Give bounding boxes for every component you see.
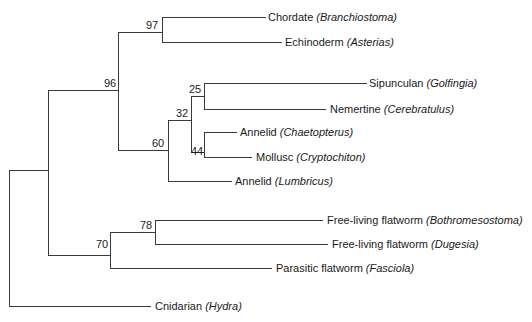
bootstrap-value: 78 [140, 219, 152, 231]
taxon-group: Sipunculan [369, 77, 427, 89]
taxon-genus: (Hydra) [205, 300, 242, 312]
node-connector [162, 17, 163, 43]
terminal-branch [155, 244, 328, 245]
internal-branch [48, 255, 111, 256]
taxon-group: Cnidarian [155, 300, 205, 312]
terminal-branch [155, 220, 323, 221]
taxon-genus: (Golfingia) [427, 77, 478, 89]
bootstrap-value: 32 [176, 107, 188, 119]
taxon-group: Mollusc [256, 151, 296, 163]
taxon-genus: (Chaetopterus) [280, 126, 353, 138]
internal-branch [9, 170, 49, 171]
taxon-genus: (Asterias) [347, 36, 394, 48]
taxon-genus: (Dugesia) [431, 238, 479, 250]
terminal-branch [9, 306, 151, 307]
node-connector [9, 170, 10, 307]
node-connector [110, 232, 111, 269]
taxon-genus: (Cryptochiton) [296, 151, 365, 163]
internal-branch [191, 96, 205, 97]
taxon-label: Free-living flatworm (Dugesia) [332, 238, 479, 250]
terminal-branch [162, 17, 266, 18]
bootstrap-value: 25 [189, 83, 201, 95]
node-connector [168, 120, 169, 182]
taxon-group: Nemertine [330, 103, 384, 115]
taxon-group: Free-living flatworm [332, 238, 431, 250]
taxon-group: Annelid [235, 175, 275, 187]
internal-branch [118, 150, 169, 151]
taxon-genus: (Cerebratulus) [384, 103, 454, 115]
terminal-branch [204, 109, 326, 110]
taxon-genus: (Branchiostoma) [316, 11, 397, 23]
bootstrap-value: 44 [191, 145, 203, 157]
taxon-group: Free-living flatworm [327, 214, 426, 226]
taxon-label: Mollusc (Cryptochiton) [256, 151, 365, 163]
node-connector [204, 132, 205, 158]
taxon-genus: (Fasciola) [366, 262, 414, 274]
taxon-group: Echinoderm [285, 36, 347, 48]
taxon-label: Sipunculan (Golfingia) [369, 77, 477, 89]
terminal-branch [204, 83, 367, 84]
taxon-genus: (Bothromesostoma) [426, 214, 523, 226]
terminal-branch [168, 181, 232, 182]
taxon-genus: (Lumbricus) [275, 175, 333, 187]
internal-branch [118, 32, 163, 33]
internal-branch [110, 232, 156, 233]
taxon-group: Chordate [268, 11, 316, 23]
node-connector [48, 90, 49, 256]
taxon-label: Cnidarian (Hydra) [155, 300, 242, 312]
taxon-group: Annelid [240, 126, 280, 138]
internal-branch [48, 90, 119, 91]
terminal-branch [162, 42, 282, 43]
bootstrap-value: 70 [96, 238, 108, 250]
taxon-label: Echinoderm (Asterias) [285, 36, 394, 48]
taxon-label: Chordate (Branchiostoma) [268, 11, 397, 23]
bootstrap-value: 97 [146, 19, 158, 31]
taxon-group: Parasitic flatworm [276, 262, 366, 274]
taxon-label: Annelid (Chaetopterus) [240, 126, 353, 138]
terminal-branch [204, 157, 252, 158]
taxon-label: Free-living flatworm (Bothromesostoma) [327, 214, 523, 226]
bootstrap-value: 96 [104, 77, 116, 89]
terminal-branch [204, 132, 237, 133]
taxon-label: Annelid (Lumbricus) [235, 175, 333, 187]
taxon-label: Nemertine (Cerebratulus) [330, 103, 454, 115]
taxon-label: Parasitic flatworm (Fasciola) [276, 262, 414, 274]
terminal-branch [110, 268, 272, 269]
bootstrap-value: 60 [152, 137, 164, 149]
internal-branch [168, 120, 192, 121]
node-connector [118, 32, 119, 151]
